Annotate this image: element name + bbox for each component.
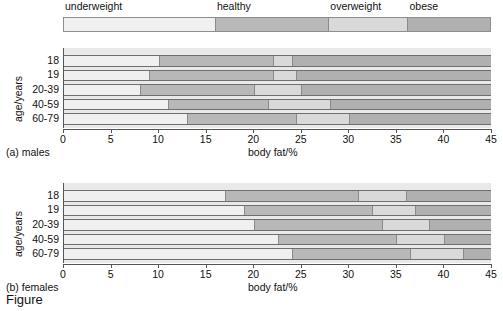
x-tick-label: 15 <box>191 268 221 280</box>
x-axis-line <box>63 264 492 265</box>
bar-row <box>64 234 491 246</box>
bar-segment-obese <box>429 220 491 230</box>
bar-segment-overweight <box>396 235 443 245</box>
x-tick-label: 20 <box>238 268 268 280</box>
bar-segment-obese <box>406 191 491 201</box>
x-tick-label: 45 <box>476 268 503 280</box>
x-tick-label: 30 <box>333 268 363 280</box>
chart-panel-females: 181920-3940-5960-79age/years051015202530… <box>0 0 503 135</box>
y-axis-title: age/years <box>12 211 24 257</box>
bar-segment-underweight <box>64 249 292 259</box>
bar-row <box>64 248 491 260</box>
bar-row <box>64 219 491 231</box>
bar-segment-overweight <box>358 191 405 201</box>
bar-segment-underweight <box>64 206 244 216</box>
bar-segment-overweight <box>382 220 429 230</box>
y-tick-label: 18 <box>6 190 59 201</box>
bar-segment-healthy <box>292 249 411 259</box>
plot-area-females <box>63 183 491 263</box>
figure-root: underweighthealthyoverweightobese 181920… <box>0 0 503 311</box>
bar-segment-underweight <box>64 191 225 201</box>
panel-caption-males: (a) males <box>6 146 50 158</box>
figure-caption: Figure <box>6 292 43 307</box>
bar-segment-underweight <box>64 220 254 230</box>
x-axis-title: body fat/% <box>248 146 298 158</box>
x-tick-label: 5 <box>96 268 126 280</box>
bar-segment-healthy <box>244 206 372 216</box>
x-tick-label: 35 <box>381 268 411 280</box>
x-tick-label: 40 <box>428 268 458 280</box>
bar-segment-healthy <box>278 235 397 245</box>
bar-segment-overweight <box>372 206 415 216</box>
bar-segment-overweight <box>410 249 462 259</box>
x-tick-label: 0 <box>48 268 78 280</box>
x-tick-label: 10 <box>143 268 173 280</box>
bar-segment-obese <box>463 249 491 259</box>
x-axis-title: body fat/% <box>248 281 298 293</box>
x-tick-label: 25 <box>286 268 316 280</box>
bar-segment-healthy <box>225 191 358 201</box>
bar-segment-obese <box>415 206 491 216</box>
bar-segment-underweight <box>64 235 278 245</box>
bar-row <box>64 190 491 202</box>
bar-segment-obese <box>444 235 491 245</box>
bar-row <box>64 205 491 217</box>
bar-segment-healthy <box>254 220 382 230</box>
